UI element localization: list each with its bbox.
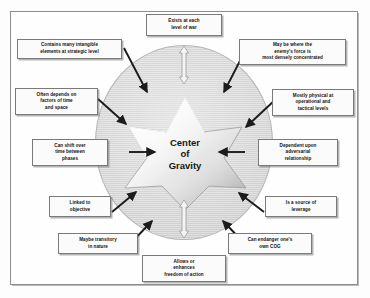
- callout-bottom-left[interactable]: Maybe transitoryin nature: [58, 233, 138, 254]
- callout-top-left-text: Contains many intangibleelements at stra…: [21, 42, 118, 55]
- callout-bottom-text: Allows orenhancesfreedom of action: [146, 259, 222, 279]
- callout-upper-left-text: Often depends onfactors of timeand space: [19, 92, 94, 112]
- callout-lower-left[interactable]: Linked toobjective: [49, 196, 111, 217]
- callout-lower-left-text: Linked toobjective: [53, 200, 107, 213]
- callout-bottom-right[interactable]: Can endanger one'sown COG: [228, 233, 312, 254]
- callout-bottom[interactable]: Allows orenhancesfreedom of action: [142, 255, 226, 282]
- callout-mid-right-text: Dependent uponadversarialrelationship: [262, 143, 334, 163]
- callout-top-right[interactable]: May be where theenemy's force ismost den…: [239, 39, 346, 65]
- callout-bottom-left-text: Maybe transitoryin nature: [62, 237, 134, 250]
- callout-mid-left-text: Can shift overtime betweenphases: [36, 143, 104, 163]
- callout-mid-left[interactable]: Can shift overtime betweenphases: [32, 139, 108, 166]
- callout-lower-right-text: Is a source ofleverage: [269, 200, 333, 213]
- center-of-gravity-star: Center of Gravity: [112, 96, 258, 212]
- diagram-canvas: Center of Gravity Exis: [0, 0, 370, 298]
- callout-bottom-right-text: Can endanger one'sown COG: [232, 237, 308, 250]
- callout-lower-right[interactable]: Is a source ofleverage: [265, 196, 337, 217]
- callout-upper-right-text: Mostly physical atoperational andtactica…: [276, 93, 350, 113]
- callout-top-text: Exists at eachlevel of war: [150, 18, 218, 31]
- callout-upper-left[interactable]: Often depends onfactors of timeand space: [15, 88, 98, 115]
- callout-top[interactable]: Exists at eachlevel of war: [146, 14, 222, 36]
- callout-upper-right[interactable]: Mostly physical atoperational andtactica…: [272, 89, 354, 116]
- callout-mid-right[interactable]: Dependent uponadversarialrelationship: [258, 139, 338, 166]
- callout-top-left[interactable]: Contains many intangibleelements at stra…: [17, 39, 122, 59]
- callout-top-right-text: May be where theenemy's force ismost den…: [243, 42, 342, 62]
